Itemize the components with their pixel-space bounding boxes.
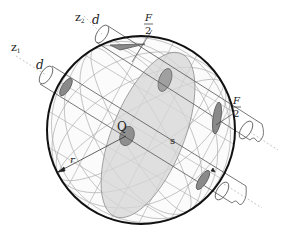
label-z1: z1: [11, 41, 21, 54]
label-force-top: F 2: [144, 12, 153, 36]
svg-text:F: F: [232, 95, 241, 106]
svg-text:2: 2: [233, 108, 239, 119]
label-d-z1: d: [36, 58, 44, 72]
sphere: [18, 5, 280, 234]
label-z2: z2: [75, 11, 85, 24]
sphere-cylinder-diagram: z1 d z2 d F 2 F 2 Q s r: [0, 0, 284, 234]
label-force-right: F 2: [232, 95, 241, 119]
label-s: s: [170, 135, 175, 146]
label-q: Q: [117, 120, 127, 134]
label-d-z2: d: [92, 13, 100, 27]
svg-text:F: F: [144, 12, 153, 23]
svg-text:2: 2: [145, 25, 151, 36]
